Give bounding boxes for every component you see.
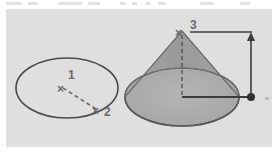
diagram-panel: × 1 × 2 (6, 9, 272, 147)
scan-speck (6, 2, 22, 5)
screenshot-root: × 1 × 2 (0, 0, 279, 159)
marker-3-label: 3 (190, 18, 197, 32)
scan-speck (200, 2, 214, 5)
cone-group: × 3 (125, 18, 255, 126)
height-arrowhead (247, 32, 255, 41)
scan-speck (120, 2, 126, 5)
scan-speck (240, 2, 250, 5)
scan-speck (146, 2, 150, 5)
marker-1-glyph: × (57, 82, 64, 96)
scan-speck (28, 2, 38, 5)
marker-2-glyph: × (92, 104, 99, 118)
left-circle-group: × 1 × 2 (16, 58, 118, 119)
geometry-diagram: × 1 × 2 (6, 9, 272, 147)
marker-1-group: × 1 (57, 68, 75, 96)
scan-speck (132, 2, 137, 5)
marker-2-label: 2 (104, 105, 111, 119)
scan-speck (58, 2, 82, 5)
scan-speck (88, 2, 100, 5)
scan-edge-speck (265, 97, 269, 100)
circle-outline (16, 58, 118, 118)
scan-speck (158, 2, 166, 5)
marker-1-label: 1 (68, 68, 75, 82)
marker-2-group: × 2 (92, 104, 111, 119)
page-bottom-margin (0, 147, 279, 159)
marker-3-glyph: × (175, 26, 182, 40)
scan-noise-strip (0, 0, 279, 9)
